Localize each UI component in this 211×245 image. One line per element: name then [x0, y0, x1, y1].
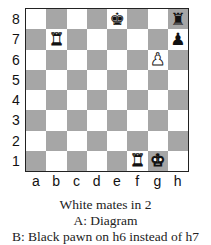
square-c8	[67, 9, 87, 29]
square-b1	[46, 151, 66, 171]
rank-label-3: 3	[9, 110, 23, 130]
square-h3	[168, 110, 188, 130]
square-b5	[46, 70, 66, 90]
square-f6	[127, 50, 147, 70]
square-g6: ♟	[148, 50, 168, 70]
square-d6	[87, 50, 107, 70]
square-h4	[168, 90, 188, 110]
square-c7	[67, 29, 87, 49]
file-label-h: h	[168, 172, 188, 190]
caption-title: White mates in 2	[0, 197, 211, 213]
rank-label-4: 4	[9, 90, 23, 110]
black-rook-icon: ♜	[170, 11, 185, 28]
file-label-b: b	[46, 172, 66, 190]
square-a1	[26, 151, 46, 171]
square-a2	[26, 131, 46, 151]
square-d7	[87, 29, 107, 49]
rank-label-1: 1	[9, 151, 23, 171]
square-a4	[26, 90, 46, 110]
white-rook-icon: ♜	[130, 152, 145, 169]
square-e2	[107, 131, 127, 151]
square-a6	[26, 50, 46, 70]
rank-label-6: 6	[9, 50, 23, 70]
square-c3	[67, 110, 87, 130]
square-g1: ♚	[148, 151, 168, 171]
square-f4	[127, 90, 147, 110]
square-g3	[148, 110, 168, 130]
square-a7	[26, 29, 46, 49]
caption-variant-a: A: Diagram	[0, 213, 211, 229]
square-h1	[168, 151, 188, 171]
square-a3	[26, 110, 46, 130]
rank-label-8: 8	[9, 9, 23, 29]
square-d5	[87, 70, 107, 90]
square-g8	[148, 9, 168, 29]
square-f5	[127, 70, 147, 90]
square-d4	[87, 90, 107, 110]
file-label-f: f	[127, 172, 147, 190]
black-king-icon: ♚	[110, 11, 125, 28]
square-g4	[148, 90, 168, 110]
square-d8	[87, 9, 107, 29]
square-h2	[168, 131, 188, 151]
square-c5	[67, 70, 87, 90]
square-d1	[87, 151, 107, 171]
square-f8	[127, 9, 147, 29]
rank-label-2: 2	[9, 131, 23, 151]
white-pawn-icon: ♟	[150, 51, 165, 68]
black-pawn-icon: ♟	[170, 31, 185, 48]
square-a5	[26, 70, 46, 90]
file-label-a: a	[26, 172, 46, 190]
square-c2	[67, 131, 87, 151]
square-h7: ♟	[168, 29, 188, 49]
square-a8	[26, 9, 46, 29]
chess-board: ♚♜♜♟♟♜♚	[25, 8, 189, 172]
file-label-d: d	[87, 172, 107, 190]
square-g2	[148, 131, 168, 151]
white-king-icon: ♚	[150, 152, 165, 169]
square-b6	[46, 50, 66, 70]
square-e6	[107, 50, 127, 70]
square-f2	[127, 131, 147, 151]
square-g7	[148, 29, 168, 49]
square-d2	[87, 131, 107, 151]
square-f1: ♜	[127, 151, 147, 171]
rank-label-7: 7	[9, 29, 23, 49]
square-c1	[67, 151, 87, 171]
square-f7	[127, 29, 147, 49]
square-e5	[107, 70, 127, 90]
square-e7	[107, 29, 127, 49]
square-c4	[67, 90, 87, 110]
square-h8: ♜	[168, 9, 188, 29]
square-e1	[107, 151, 127, 171]
caption-variant-b: B: Black pawn on h6 instead of h7	[0, 229, 211, 245]
square-g5	[148, 70, 168, 90]
square-h5	[168, 70, 188, 90]
file-label-g: g	[148, 172, 168, 190]
file-label-c: c	[67, 172, 87, 190]
file-label-e: e	[107, 172, 127, 190]
square-e3	[107, 110, 127, 130]
square-d3	[87, 110, 107, 130]
square-e8: ♚	[107, 9, 127, 29]
white-rook-icon: ♜	[49, 31, 64, 48]
rank-label-5: 5	[9, 70, 23, 90]
square-b7: ♜	[46, 29, 66, 49]
square-e4	[107, 90, 127, 110]
square-b8	[46, 9, 66, 29]
square-h6	[168, 50, 188, 70]
square-b2	[46, 131, 66, 151]
square-f3	[127, 110, 147, 130]
square-b3	[46, 110, 66, 130]
square-c6	[67, 50, 87, 70]
square-b4	[46, 90, 66, 110]
